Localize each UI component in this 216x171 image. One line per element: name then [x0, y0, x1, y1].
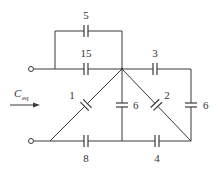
junction-node — [121, 68, 123, 70]
capacitor-15 — [84, 63, 88, 75]
label-8: 8 — [83, 152, 89, 164]
label-3: 3 — [152, 47, 158, 59]
top-terminal — [29, 67, 34, 72]
capacitor-5 — [84, 25, 88, 37]
ceq-subscript: eq — [22, 94, 29, 102]
label-6-center: 6 — [133, 99, 139, 111]
capacitor-4 — [155, 135, 159, 147]
label-4: 4 — [154, 152, 160, 164]
capacitor-3 — [153, 63, 157, 75]
capacitor-8 — [84, 135, 88, 147]
label-2: 2 — [164, 89, 170, 101]
label-1: 1 — [69, 89, 75, 101]
label-6-right: 6 — [203, 99, 209, 111]
capacitor-6-center — [116, 103, 128, 107]
wire-left-diagonal — [50, 69, 122, 141]
capacitor-6-right — [185, 103, 197, 107]
bottom-terminal — [29, 139, 34, 144]
label-15: 15 — [81, 47, 93, 59]
arrow-right-icon — [10, 103, 40, 108]
capacitor-circuit-diagram: 15 5 3 6 6 — [0, 0, 216, 171]
ceq-label: C — [14, 87, 22, 99]
label-5: 5 — [83, 9, 89, 21]
